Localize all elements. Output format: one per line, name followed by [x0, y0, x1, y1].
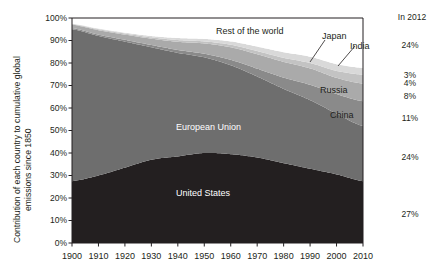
y-tick-70: 70%	[33, 81, 67, 90]
y-axis-tick-labels: 100%90%80%70%60%50%40%30%20%10%0%	[33, 0, 67, 250]
label-russia: Russia	[320, 85, 348, 95]
label-rest-of-the-world: Rest of the world	[216, 26, 284, 36]
label-china: China	[330, 110, 354, 120]
right-value-rest-of-the-world: 24%	[390, 41, 430, 50]
y-tick-50: 50%	[33, 126, 67, 135]
y-tick-40: 40%	[33, 149, 67, 158]
x-tick-2010: 2010	[346, 251, 380, 261]
label-japan: Japan	[322, 31, 347, 41]
right-value-united-states: 27%	[390, 210, 430, 219]
right-value-india: 4%	[390, 79, 430, 88]
stacked-area-chart: Contribution of each country to cumulati…	[0, 0, 436, 277]
y-tick-80: 80%	[33, 59, 67, 68]
label-european-union: European Union	[176, 122, 241, 132]
label-united-states: United States	[176, 188, 230, 198]
y-axis-title-line-1: Contribution of each country to cumulati…	[12, 56, 22, 243]
right-value-column: In 2012 24%3%4%8%11%24%27%	[390, 0, 436, 250]
y-tick-30: 30%	[33, 171, 67, 180]
y-tick-10: 10%	[33, 216, 67, 225]
right-value-russia: 8%	[390, 92, 430, 101]
y-tick-20: 20%	[33, 194, 67, 203]
x-axis-tick-labels: 1900191019201930194019501960197019801990…	[0, 246, 436, 266]
label-india: India	[350, 41, 370, 51]
y-tick-100: 100%	[33, 14, 67, 23]
y-tick-60: 60%	[33, 104, 67, 113]
right-value-china: 11%	[390, 114, 430, 123]
y-axis-title: Contribution of each country to cumulati…	[0, 0, 34, 250]
y-tick-90: 90%	[33, 36, 67, 45]
y-axis-title-line-2: emissions since 1850	[23, 128, 33, 211]
right-column-header: In 2012	[390, 12, 434, 22]
right-value-european-union: 24%	[390, 153, 430, 162]
